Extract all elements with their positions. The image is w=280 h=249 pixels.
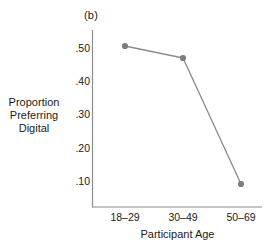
x-tick-label-18-29: 18–29 (96, 211, 154, 223)
data-point-30-49 (180, 55, 186, 61)
data-point-18-29 (122, 43, 128, 49)
figure-panel-b: (b) Proportion Preferring Digital .50 .4… (0, 0, 280, 249)
data-point-50-69 (238, 181, 244, 187)
x-tick-label-30-49: 30–49 (154, 211, 212, 223)
x-tick-label-50-69: 50–69 (212, 211, 270, 223)
x-axis-title: Participant Age (93, 228, 262, 240)
data-line-series-1 (125, 46, 241, 184)
